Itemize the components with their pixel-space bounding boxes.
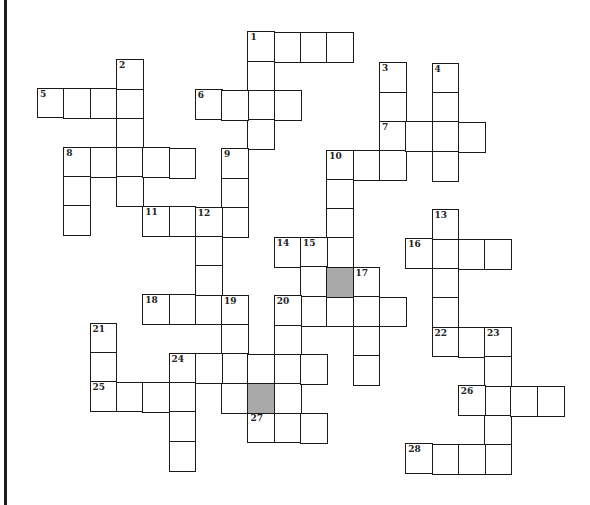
- cell-letter-input[interactable]: [170, 383, 196, 412]
- crossword-cell[interactable]: [300, 413, 328, 444]
- cell-letter-input[interactable]: [117, 177, 143, 206]
- crossword-cell[interactable]: 6: [195, 89, 223, 120]
- crossword-cell[interactable]: [221, 178, 249, 209]
- cell-letter-input[interactable]: [248, 120, 274, 149]
- crossword-cell[interactable]: [169, 148, 197, 179]
- crossword-cell[interactable]: [300, 32, 328, 63]
- cell-letter-input[interactable]: [459, 240, 485, 269]
- crossword-cell[interactable]: 27: [247, 412, 275, 443]
- crossword-cell[interactable]: 24: [169, 353, 197, 384]
- cell-letter-input[interactable]: [248, 62, 274, 91]
- cell-letter-input[interactable]: [222, 354, 248, 383]
- crossword-cell[interactable]: 8: [63, 147, 91, 178]
- cell-letter-input[interactable]: [222, 325, 248, 354]
- crossword-cell[interactable]: [247, 61, 275, 92]
- crossword-cell[interactable]: [432, 151, 460, 182]
- cell-letter-input[interactable]: [117, 119, 143, 148]
- cell-letter-input[interactable]: [196, 354, 222, 383]
- crossword-cell[interactable]: [116, 89, 144, 120]
- cell-letter-input[interactable]: [354, 151, 380, 180]
- cell-letter-input[interactable]: [433, 152, 459, 181]
- crossword-cell[interactable]: 9: [221, 148, 249, 179]
- cell-letter-input[interactable]: [433, 240, 459, 269]
- crossword-cell[interactable]: 11: [142, 206, 170, 237]
- crossword-cell[interactable]: [510, 386, 538, 417]
- crossword-cell[interactable]: 12: [195, 207, 223, 238]
- cell-letter-input[interactable]: [64, 177, 90, 206]
- crossword-cell[interactable]: [432, 121, 460, 152]
- crossword-cell[interactable]: 5: [37, 88, 65, 119]
- crossword-cell[interactable]: [90, 88, 118, 119]
- cell-letter-input[interactable]: [222, 179, 248, 208]
- cell-letter-input[interactable]: [485, 240, 511, 269]
- cell-letter-input[interactable]: [433, 93, 459, 122]
- cell-letter-input[interactable]: [196, 266, 222, 295]
- cell-letter-input[interactable]: [301, 33, 327, 62]
- crossword-cell[interactable]: 16: [405, 238, 433, 269]
- cell-letter-input[interactable]: [170, 412, 196, 441]
- crossword-cell[interactable]: [300, 266, 328, 297]
- crossword-cell[interactable]: [353, 296, 381, 327]
- cell-letter-input[interactable]: [196, 237, 222, 266]
- cell-letter-input[interactable]: [275, 384, 301, 413]
- cell-letter-input[interactable]: [301, 267, 327, 296]
- cell-letter-input[interactable]: [459, 123, 485, 152]
- cell-letter-input[interactable]: [91, 353, 117, 382]
- crossword-cell[interactable]: [484, 444, 512, 475]
- cell-letter-input[interactable]: [380, 93, 406, 122]
- crossword-cell[interactable]: [432, 268, 460, 299]
- crossword-cell[interactable]: [63, 176, 91, 207]
- crossword-cell[interactable]: [116, 118, 144, 149]
- cell-letter-input[interactable]: [354, 297, 380, 326]
- crossword-cell[interactable]: [247, 119, 275, 150]
- crossword-cell[interactable]: [169, 206, 197, 237]
- crossword-cell[interactable]: [274, 354, 302, 385]
- cell-letter-input[interactable]: [248, 355, 274, 384]
- crossword-cell[interactable]: [90, 147, 118, 178]
- crossword-cell[interactable]: [326, 296, 354, 327]
- crossword-cell[interactable]: [221, 207, 249, 238]
- crossword-cell[interactable]: 20: [274, 295, 302, 326]
- crossword-cell[interactable]: [142, 147, 170, 178]
- crossword-cell[interactable]: 21: [90, 323, 118, 354]
- cell-letter-input[interactable]: [275, 414, 301, 443]
- crossword-cell[interactable]: [169, 441, 197, 472]
- cell-letter-input[interactable]: [485, 445, 511, 474]
- crossword-cell[interactable]: [432, 239, 460, 270]
- crossword-cell[interactable]: [169, 411, 197, 442]
- cell-letter-input[interactable]: [327, 33, 353, 62]
- cell-letter-input[interactable]: [380, 298, 406, 327]
- crossword-cell[interactable]: [169, 294, 197, 325]
- crossword-cell[interactable]: [353, 355, 381, 386]
- cell-letter-input[interactable]: [354, 327, 380, 356]
- cell-letter-input[interactable]: [275, 355, 301, 384]
- cell-letter-input[interactable]: [275, 33, 301, 62]
- cell-letter-input[interactable]: [196, 296, 222, 325]
- crossword-cell[interactable]: [274, 413, 302, 444]
- crossword-cell[interactable]: [432, 297, 460, 328]
- crossword-cell[interactable]: [221, 353, 249, 384]
- crossword-cell[interactable]: 14: [274, 237, 302, 268]
- cell-letter-input[interactable]: [485, 357, 511, 386]
- cell-letter-input[interactable]: [433, 298, 459, 327]
- crossword-cell[interactable]: [63, 205, 91, 236]
- crossword-cell[interactable]: 15: [300, 237, 328, 268]
- crossword-cell[interactable]: [274, 325, 302, 356]
- cell-letter-input[interactable]: [459, 328, 485, 357]
- cell-letter-input[interactable]: [64, 89, 90, 118]
- crossword-cell[interactable]: [221, 324, 249, 355]
- crossword-cell[interactable]: [537, 386, 565, 417]
- cell-letter-input[interactable]: [433, 122, 459, 151]
- crossword-cell[interactable]: [326, 208, 354, 239]
- crossword-cell[interactable]: [63, 88, 91, 119]
- crossword-cell[interactable]: [274, 32, 302, 63]
- cell-letter-input[interactable]: [538, 387, 564, 416]
- crossword-cell[interactable]: [195, 295, 223, 326]
- crossword-cell[interactable]: [484, 415, 512, 446]
- crossword-cell[interactable]: 1: [247, 31, 275, 62]
- crossword-cell[interactable]: [353, 150, 381, 181]
- crossword-cell[interactable]: 7: [379, 121, 407, 152]
- crossword-cell[interactable]: [326, 179, 354, 210]
- cell-letter-input[interactable]: [433, 269, 459, 298]
- crossword-cell[interactable]: 25: [90, 381, 118, 412]
